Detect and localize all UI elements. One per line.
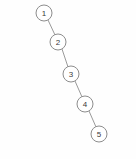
tree-node-4-label: 4: [83, 100, 88, 109]
tree-node-3-label: 3: [69, 70, 74, 79]
tree-edge-2-3: [62, 49, 68, 67]
tree-node-5-label: 5: [97, 130, 102, 139]
tree-node-2[interactable]: 2: [50, 34, 66, 50]
tree-edge-4-5: [89, 111, 96, 127]
tree-edge-3-4: [75, 81, 82, 97]
tree-diagram-canvas: 1 2 3 4 5: [0, 0, 136, 159]
node-group: 1 2 3 4 5: [36, 5, 107, 142]
tree-node-4[interactable]: 4: [77, 96, 93, 112]
tree-edge-1-2: [48, 20, 55, 35]
tree-node-3[interactable]: 3: [63, 66, 79, 82]
tree-node-5[interactable]: 5: [91, 126, 107, 142]
tree-node-1-label: 1: [42, 9, 47, 18]
tree-node-1[interactable]: 1: [36, 5, 52, 21]
tree-diagram: 1 2 3 4 5: [0, 0, 136, 159]
tree-node-2-label: 2: [56, 38, 61, 47]
